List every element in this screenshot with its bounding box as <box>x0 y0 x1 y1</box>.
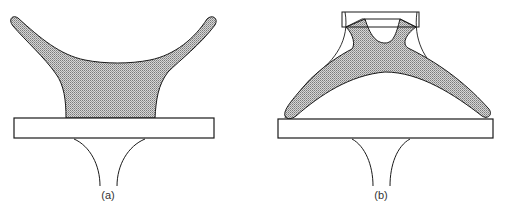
panel-a-plate <box>14 118 214 138</box>
panel-b-label: (b) <box>374 189 387 201</box>
panel-b-stem-right <box>390 139 410 186</box>
panel-a-stem-right <box>117 139 145 186</box>
panel-a-shaded-body <box>11 17 216 118</box>
panel-a-label: (a) <box>101 189 114 201</box>
panel-b-plate <box>278 119 493 138</box>
panel-a <box>11 17 216 186</box>
panel-b <box>278 12 493 186</box>
panel-b-shaded-body <box>285 19 491 119</box>
diagram-canvas <box>0 0 505 217</box>
panel-a-stem-left <box>74 139 100 186</box>
panel-b-stem-left <box>352 139 373 186</box>
